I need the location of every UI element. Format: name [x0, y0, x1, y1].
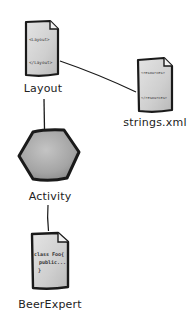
activity-label: Activity	[29, 190, 72, 203]
layout-document-icon[interactable]: <Layout> </Layout>	[22, 18, 62, 80]
layout-label: Layout	[24, 82, 63, 95]
strings-xml-label: strings.xml	[123, 116, 186, 129]
layout-doc-line-2: </Layout>	[29, 60, 53, 65]
beerexpert-label: BeerExpert	[18, 298, 82, 311]
edge-activity-beerexpert	[48, 205, 49, 231]
layout-doc-line-1: <Layout>	[29, 37, 50, 42]
beerexpert-document-icon[interactable]: class Foo{ public... }	[28, 230, 72, 292]
diagram-canvas: <Layout> </Layout> Layout <resources> </…	[0, 0, 190, 319]
strings-doc-line-2: </resources>	[141, 96, 168, 100]
activity-hexagon-icon[interactable]	[15, 126, 85, 186]
beerexpert-doc-line-1: class Foo{	[34, 251, 64, 257]
beerexpert-doc-line-3: }	[38, 267, 41, 273]
beerexpert-doc-line-2: public...	[39, 259, 66, 266]
edge-layout-strings	[60, 61, 136, 92]
strings-doc-line-1: <resources>	[141, 71, 166, 75]
strings-xml-document-icon[interactable]: <resources> </resources>	[135, 55, 175, 115]
